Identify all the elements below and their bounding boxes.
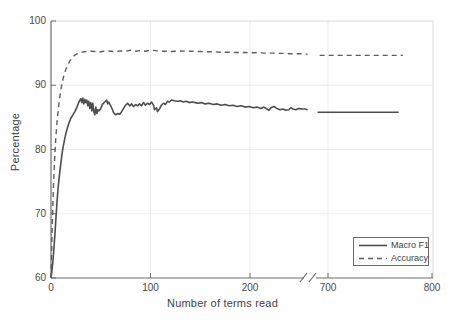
x-tick-label-700: 700 xyxy=(320,283,337,293)
y-tick-label-60: 60 xyxy=(14,273,46,283)
solid-line-sample-icon xyxy=(358,243,388,248)
x-tick-label-100: 100 xyxy=(142,283,159,293)
chart-figure: Percentage Number of terms read Macro F1… xyxy=(0,0,457,328)
y-tick-label-90: 90 xyxy=(14,80,46,90)
x-tick-label-0: 0 xyxy=(48,283,54,293)
y-tick-label-70: 70 xyxy=(14,209,46,219)
x-axis-label: Number of terms read xyxy=(0,297,445,309)
y-tick-label-100: 100 xyxy=(14,16,46,26)
axis-break-slash-2 xyxy=(309,273,316,282)
legend-item-accuracy: Accuracy xyxy=(358,253,428,264)
y-tick-label-80: 80 xyxy=(14,145,46,155)
legend-item-macro-f1: Macro F1 xyxy=(358,240,428,251)
accuracy-line-segment-1 xyxy=(51,50,308,278)
legend-label-accuracy: Accuracy xyxy=(391,253,428,263)
dashed-line-sample-icon xyxy=(358,256,388,261)
plot-area xyxy=(0,0,457,328)
y-axis-label: Percentage xyxy=(9,113,21,171)
legend: Macro F1 Accuracy xyxy=(353,237,429,266)
macro-f1-line-segment-1 xyxy=(51,98,308,278)
x-tick-label-200: 200 xyxy=(242,283,259,293)
x-tick-label-800: 800 xyxy=(424,283,441,293)
legend-label-macro-f1: Macro F1 xyxy=(391,240,429,250)
